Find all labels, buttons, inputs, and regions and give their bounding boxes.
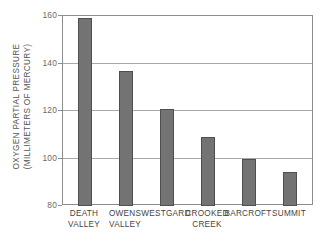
x-label-barcroft: BARCROFT xyxy=(224,209,271,220)
x-label-line: OWENS xyxy=(109,209,141,220)
gridline-100 xyxy=(63,158,312,159)
x-label-owens-valley: OWENS VALLEY xyxy=(109,209,141,230)
x-label-death-valley: DEATH VALLEY xyxy=(68,209,100,230)
x-label-line: DEATH xyxy=(68,209,100,220)
bar-barcroft xyxy=(242,159,256,207)
y-tick-label-120: 120 xyxy=(35,105,57,115)
plot-area xyxy=(62,15,313,205)
x-label-line: WESTGARD xyxy=(141,209,190,220)
y-axis-title-line-1: OXYGEN PARTIAL PRESSURE xyxy=(13,43,24,169)
x-label-line: VALLEY xyxy=(68,220,100,231)
gridline-120 xyxy=(63,110,312,111)
y-tick-label-140: 140 xyxy=(35,58,57,68)
x-label-summit: SUMMIT xyxy=(272,209,306,220)
y-tick-label-80: 80 xyxy=(35,200,57,210)
x-label-line: CROOKED xyxy=(185,209,228,220)
x-label-westgard: WESTGARD xyxy=(141,209,190,220)
y-tick-mark-80 xyxy=(58,205,62,206)
y-tick-label-160: 160 xyxy=(35,10,57,20)
oxygen-partial-pressure-bar-chart: OXYGEN PARTIAL PRESSURE (MILLIMETERS OF … xyxy=(0,0,333,244)
x-label-line: CREEK xyxy=(185,220,228,231)
y-axis-title-line-2: (MILLIMETERS OF MERCURY) xyxy=(23,43,34,169)
gridline-140 xyxy=(63,63,312,64)
bar-summit xyxy=(283,172,297,206)
x-label-crooked-creek: CROOKED CREEK xyxy=(185,209,228,230)
bar-westgard xyxy=(160,109,174,206)
bar-owens-valley xyxy=(119,71,133,206)
x-label-line: SUMMIT xyxy=(272,209,306,220)
y-tick-label-100: 100 xyxy=(35,153,57,163)
x-label-line: BARCROFT xyxy=(224,209,271,220)
x-label-line: VALLEY xyxy=(109,220,141,231)
bar-crooked-creek xyxy=(201,137,215,206)
bar-death-valley xyxy=(78,18,92,206)
